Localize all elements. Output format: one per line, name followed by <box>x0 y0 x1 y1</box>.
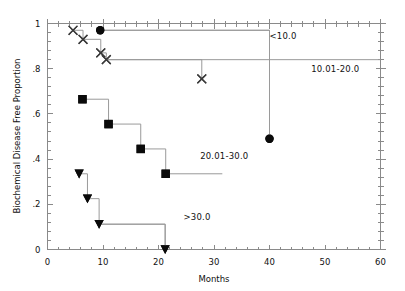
plot-frame <box>48 24 381 250</box>
x-tick-label: 40 <box>264 257 275 267</box>
x-tick-label: 50 <box>320 257 331 267</box>
x-axis-tick-labels: 0102030405060 <box>45 257 386 267</box>
y-tick-label: .8 <box>32 64 40 74</box>
data-point-square <box>104 120 112 128</box>
y-tick-label: .6 <box>32 109 40 119</box>
x-tick-label: 10 <box>98 257 109 267</box>
series-annotation-label: 10.01-20.0 <box>311 64 359 74</box>
y-axis-title: Biochemical Disease Free Proportion <box>12 58 22 213</box>
x-tick-label: 20 <box>153 257 164 267</box>
series-annotation-label: 20.01-30.0 <box>200 151 248 161</box>
y-axis-tick-labels: 0.2.4.6.81 <box>32 19 40 255</box>
series-annotation-label: >30.0 <box>183 212 210 222</box>
x-axis-ticks <box>48 19 381 250</box>
x-tick-label: 0 <box>45 257 50 267</box>
series-step-line <box>79 174 165 250</box>
y-axis-ticks <box>48 24 386 250</box>
data-point-circle <box>265 135 273 143</box>
series-4 <box>75 170 170 255</box>
series-step-line <box>82 99 165 174</box>
y-tick-label: .4 <box>32 154 40 164</box>
y-tick-label: 1 <box>35 19 40 29</box>
data-point-square <box>137 145 145 153</box>
x-tick-label: 60 <box>375 257 386 267</box>
series-1 <box>96 26 274 143</box>
plot-frame-rect <box>48 24 381 250</box>
series-annotation-label: <10.0 <box>270 31 297 41</box>
data-point-circle <box>96 26 104 34</box>
data-point-square <box>78 95 86 103</box>
series-3 <box>78 95 170 178</box>
leader-line-lt10 <box>100 30 269 138</box>
leader-line-gt30 <box>99 224 165 249</box>
x-tick-label: 30 <box>209 257 220 267</box>
series-2 <box>69 26 207 83</box>
survival-curve-chart: 0102030405060 0.2.4.6.81 <10.010.01-20.0… <box>0 0 405 291</box>
series-step-line <box>73 30 202 79</box>
data-point-square <box>162 170 170 178</box>
annotation-group: <10.010.01-20.020.01-30.0>30.0 <box>69 26 381 254</box>
x-axis-title: Months <box>198 274 230 284</box>
series-step-line <box>100 30 269 138</box>
chart-container: 0102030405060 0.2.4.6.81 <10.010.01-20.0… <box>0 0 405 291</box>
y-tick-label: 0 <box>35 245 40 255</box>
y-tick-label: .2 <box>32 199 40 209</box>
